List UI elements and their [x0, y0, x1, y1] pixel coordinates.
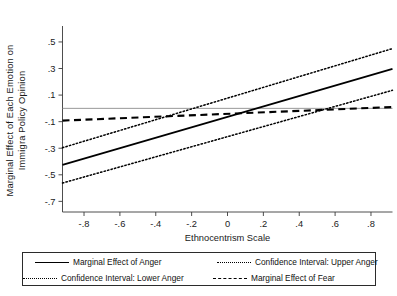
- legend-label: Confidence Interval: Upper Anger: [255, 257, 378, 267]
- legend-label: Marginal Effect of Anger: [73, 257, 161, 267]
- y-axis-tick-label: .5: [48, 37, 56, 47]
- plot-area: .5.3.1-.1-.3-.5-.7-.8-.6-.4-.20.2.4.6.8E…: [0, 0, 397, 250]
- series-line-confidence-interval-upper-anger: [63, 49, 393, 148]
- x-axis-tick-label: .6: [331, 219, 339, 229]
- chart-figure: Marginal Effect of Each Emotion on Immig…: [0, 0, 397, 296]
- legend-label: Marginal Effect of Fear: [251, 273, 335, 283]
- series-line-marginal-effect-of-anger: [63, 69, 393, 165]
- series-line-marginal-effect-of-fear: [63, 107, 393, 121]
- x-axis-tick-label: -.4: [150, 219, 161, 229]
- legend-swatch-dotted-line-icon: [217, 258, 251, 267]
- x-axis-tick-label: .8: [367, 219, 375, 229]
- x-axis-title: Ethnocentrism Scale: [185, 233, 270, 243]
- x-axis-tick-label: -.8: [79, 219, 90, 229]
- y-axis-tick-label: -.7: [45, 197, 56, 207]
- legend-swatch-dashed-line-icon: [213, 274, 247, 283]
- y-axis-tick-label: -.3: [45, 144, 56, 154]
- legend-item-ci-lower-anger: Confidence Interval: Lower Anger: [23, 270, 213, 286]
- y-axis-tick-label: .3: [48, 64, 56, 74]
- x-axis-tick-label: -.6: [114, 219, 125, 229]
- y-axis-tick-label: .1: [48, 90, 56, 100]
- legend-label: Confidence Interval: Lower Anger: [61, 273, 184, 283]
- legend-swatch-dotted-line-icon: [23, 274, 57, 283]
- legend-item-marginal-effect-fear: Marginal Effect of Fear: [213, 270, 377, 286]
- chart-legend: Marginal Effect of Anger Confidence Inte…: [22, 252, 376, 286]
- legend-item-marginal-effect-anger: Marginal Effect of Anger: [23, 254, 213, 270]
- y-axis-tick-label: -.1: [45, 117, 56, 127]
- x-axis-tick-label: .4: [295, 219, 303, 229]
- legend-item-ci-upper-anger: Confidence Interval: Upper Anger: [213, 254, 377, 270]
- y-axis-tick-label: -.5: [45, 170, 56, 180]
- x-axis-tick-label: -.2: [186, 219, 197, 229]
- legend-swatch-solid-line-icon: [35, 258, 69, 267]
- series-line-confidence-interval-lower-anger: [63, 90, 393, 183]
- x-axis-tick-label: 0: [225, 219, 230, 229]
- x-axis-tick-label: .2: [259, 219, 267, 229]
